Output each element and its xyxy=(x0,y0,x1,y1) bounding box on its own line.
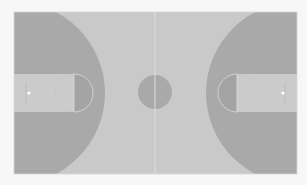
left-basket xyxy=(27,91,30,94)
basketball-court xyxy=(0,0,307,185)
right-basket xyxy=(281,91,284,94)
right-key xyxy=(237,74,297,112)
left-key xyxy=(14,74,74,112)
